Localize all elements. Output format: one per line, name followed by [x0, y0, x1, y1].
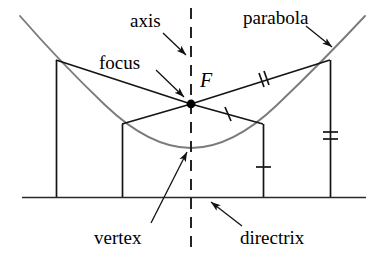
directrix-leader-arrow: [211, 202, 242, 226]
parabola-leader-arrow: [306, 26, 332, 47]
focus-leader-arrow: [156, 70, 184, 97]
vertex-leader-arrow: [151, 152, 187, 223]
axis-leader-arrow: [163, 33, 186, 55]
vertex-label: vertex: [94, 228, 141, 247]
lower-left-focal-chord: [122, 104, 191, 124]
focus-point-dot: [187, 100, 196, 109]
lower-right-focal-chord: [191, 104, 263, 124]
tick-double-upper-right-chord-a: [259, 73, 264, 87]
focus-label: focus: [99, 53, 140, 72]
diagram-canvas: [0, 0, 383, 271]
directrix-label: directrix: [240, 228, 304, 247]
focus-point-label: F: [200, 70, 212, 90]
parabola-label: parabola: [243, 8, 308, 27]
parabola-curve: [20, 16, 365, 148]
axis-label: axis: [130, 11, 161, 30]
parabola-diagram: axis parabola focus F vertex directrix: [0, 0, 383, 271]
tick-double-upper-right-chord-b: [264, 71, 269, 85]
